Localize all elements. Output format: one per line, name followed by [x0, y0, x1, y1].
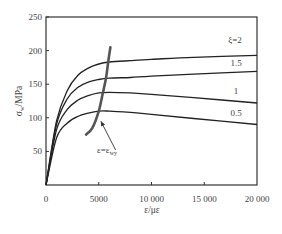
series-curves: [46, 55, 257, 185]
series-labels: ξ=21.510.5: [228, 35, 242, 118]
y-tick-label: 250: [29, 12, 43, 22]
series-label: 0.5: [230, 108, 242, 118]
y-axis-title: σw/MPa: [14, 85, 25, 116]
boundary-label-main: ε=ε: [97, 145, 110, 155]
x-tick-label: 15 000: [192, 194, 217, 204]
y-origin-label: 0: [44, 194, 49, 204]
yield-boundary-curve: [86, 47, 116, 150]
x-tick-label: 10 000: [139, 194, 164, 204]
boundary-line: [86, 47, 110, 134]
series-line: [46, 71, 257, 185]
y-axis-title-unit: /MPa: [14, 85, 24, 106]
x-tick-label: 20 000: [245, 194, 270, 204]
y-tick-label: 100: [29, 113, 43, 123]
stress-strain-chart: 50100150200250 500010 00015 00020 000 ξ=…: [0, 0, 282, 234]
y-tick-label: 150: [29, 79, 43, 89]
x-axis-title: ε/με: [144, 205, 160, 215]
y-tick-label: 200: [29, 46, 43, 56]
series-label: ξ=2: [228, 35, 242, 45]
series-label: 1.5: [230, 58, 242, 68]
x-tick-label: 5000: [90, 194, 109, 204]
series-line: [46, 55, 257, 185]
series-label: 1: [234, 86, 239, 96]
y-tick-label: 50: [33, 146, 43, 156]
series-line: [46, 92, 257, 185]
boundary-label-sub: wy: [110, 150, 117, 156]
series-line: [46, 111, 257, 185]
